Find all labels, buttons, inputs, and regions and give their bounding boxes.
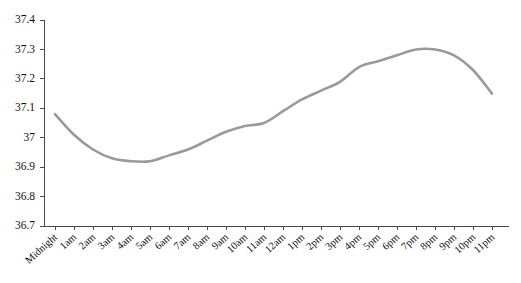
x-tick-label: 7am — [172, 231, 193, 251]
temperature-series-line — [55, 49, 492, 162]
y-tick-label: 37.4 — [15, 13, 35, 25]
x-tick-label: 4pm — [342, 231, 363, 252]
x-tick-label: 8pm — [418, 231, 439, 252]
y-tick-label: 37.1 — [15, 101, 35, 113]
x-tick-label: 5am — [134, 231, 155, 251]
y-tick-label: 36.8 — [15, 190, 35, 202]
y-tick-label: 37 — [24, 131, 36, 143]
y-tick-label: 36.9 — [15, 160, 35, 172]
x-tick-label: 1pm — [285, 231, 306, 252]
x-tick-label: 6pm — [380, 231, 401, 252]
x-tick-label: 10am — [225, 231, 250, 255]
x-tick-label: 11pm — [471, 231, 496, 255]
x-tick-label: 3pm — [323, 231, 344, 252]
x-tick-label: 2am — [77, 231, 98, 251]
x-tick-label: 1am — [58, 231, 79, 251]
x-tick-label: 4am — [115, 231, 136, 251]
x-tick-label: 7pm — [399, 231, 420, 252]
x-tick-label: 8am — [191, 231, 212, 251]
y-tick-label: 37.3 — [15, 43, 35, 55]
x-tick-label: 12am — [263, 231, 288, 255]
x-tick-label: 2pm — [304, 231, 325, 252]
y-tick-label: 36.7 — [15, 219, 35, 231]
x-tick-label: 3am — [96, 231, 117, 251]
y-tick-group: 36.736.836.93737.137.237.337.4 — [15, 13, 44, 231]
x-tick-label: Midnight — [23, 231, 59, 265]
x-tick-label: 6am — [153, 231, 174, 251]
y-axis-group: 36.736.836.93737.137.237.337.4 — [15, 13, 44, 231]
x-axis-group: Midnight1am2am3am4am5am6am7am8am9am10am1… — [23, 226, 509, 266]
x-tick-group: Midnight1am2am3am4am5am6am7am8am9am10am1… — [23, 226, 496, 266]
chart-canvas: 36.736.836.93737.137.237.337.4 Midnight1… — [0, 0, 521, 283]
x-tick-label: 11am — [244, 231, 268, 255]
temperature-line-chart: 36.736.836.93737.137.237.337.4 Midnight1… — [0, 0, 521, 283]
y-tick-label: 37.2 — [15, 72, 35, 84]
x-tick-label: 5pm — [361, 231, 382, 252]
x-tick-label: 10pm — [452, 231, 477, 255]
